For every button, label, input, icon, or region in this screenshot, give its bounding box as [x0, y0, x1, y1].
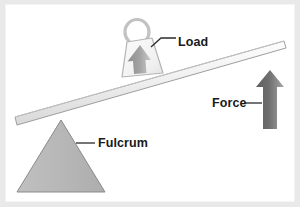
- label-fulcrum: Fulcrum: [98, 136, 148, 150]
- label-leader-lines: [76, 38, 262, 143]
- label-load: Load: [178, 35, 208, 49]
- force-direction-arrow: [256, 70, 284, 129]
- diagram-canvas: Load Force Fulcrum: [6, 5, 294, 201]
- force-arrow-shape: [256, 70, 284, 129]
- label-force: Force: [212, 96, 247, 110]
- fulcrum-triangle: [17, 120, 105, 192]
- lever-diagram-illustration: [6, 5, 294, 201]
- diagram-frame: Load Force Fulcrum: [0, 0, 300, 207]
- load-weight-block: [122, 20, 163, 78]
- fulcrum-triangle-shape: [17, 120, 105, 192]
